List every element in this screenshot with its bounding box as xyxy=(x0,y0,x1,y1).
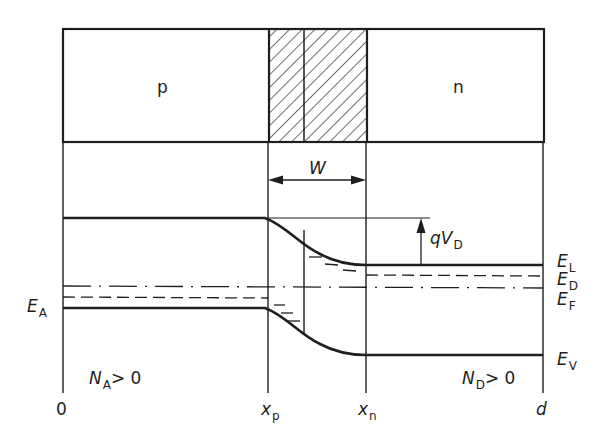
n-doping-label-main: N xyxy=(462,368,475,388)
conduction-band-line xyxy=(63,218,543,265)
donor-level-label: ED xyxy=(557,271,578,288)
x-axis-d-label: d xyxy=(536,401,547,418)
junction-schematic xyxy=(63,29,544,142)
acceptor-level-line xyxy=(63,297,268,298)
fermi-level-label-sub: F xyxy=(569,299,576,313)
valence-band-label-sub: V xyxy=(569,359,577,373)
barrier-label-main: qV xyxy=(430,228,452,248)
acceptor-level-label-sub: A xyxy=(39,306,47,320)
acceptor-level-bending-dashes xyxy=(274,305,300,321)
barrier-label: qVD xyxy=(430,230,463,247)
xp-label-sub: p xyxy=(272,409,280,423)
fermi-level-line xyxy=(63,286,543,288)
conduction-band-label-main: E xyxy=(557,251,568,271)
n-doping-label-sub: D xyxy=(476,378,485,392)
p-doping-label-main: N xyxy=(89,368,102,388)
barrier-label-sub: D xyxy=(453,238,462,252)
fermi-level-label: EF xyxy=(557,291,576,308)
depletion-width-label: W xyxy=(309,160,326,177)
n-region-label: n xyxy=(453,79,464,96)
x-axis-origin-label: 0 xyxy=(56,401,67,418)
xn-label-sub: n xyxy=(369,409,377,423)
n-doping-label-rest: > 0 xyxy=(485,368,515,388)
n-doping-label: ND> 0 xyxy=(462,370,515,387)
acceptor-level-label: EA xyxy=(27,298,47,315)
p-doping-label: NA> 0 xyxy=(89,370,141,387)
valence-band-label-main: E xyxy=(557,349,568,369)
p-doping-label-sub: A xyxy=(103,378,111,392)
x-axis-xp-label: xp xyxy=(261,401,280,418)
depletion-region-hatched xyxy=(269,29,367,142)
valence-band-label: EV xyxy=(557,351,577,368)
p-region-label: p xyxy=(157,79,168,96)
built-in-potential-arrow xyxy=(268,218,430,265)
xp-label-main: x xyxy=(261,399,271,419)
xn-label-main: x xyxy=(358,399,368,419)
conduction-band-label: EL xyxy=(557,253,575,270)
p-doping-label-rest: > 0 xyxy=(111,368,141,388)
acceptor-level-label-main: E xyxy=(27,296,38,316)
fermi-level-label-main: E xyxy=(557,289,568,309)
valence-band-line xyxy=(63,308,543,355)
donor-level-line xyxy=(366,275,543,276)
x-axis-xn-label: xn xyxy=(358,401,377,418)
donor-level-label-main: E xyxy=(557,269,568,289)
